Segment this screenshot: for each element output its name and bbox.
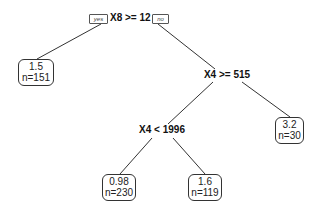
leaf-count: n=119 (189, 187, 221, 198)
leaf-node-4: 1.6 n=119 (188, 174, 222, 201)
leaf-node-1: 1.5 n=151 (18, 59, 54, 86)
decision-tree-diagram: yes X8 >= 12 no 1.5 n=151 X4 >= 515 3.2 … (0, 0, 321, 209)
edge-x4-1996-to-leaf-0.98 (120, 138, 152, 174)
leaf-value: 1.5 (19, 61, 53, 72)
edge-root-to-x4-515 (158, 24, 215, 69)
split-node-x4-515: X4 >= 515 (203, 69, 251, 81)
branch-tag-yes: yes (89, 14, 108, 24)
leaf-count: n=151 (19, 72, 53, 83)
leaf-count: n=230 (103, 187, 135, 198)
leaf-value: 3.2 (276, 119, 303, 130)
leaf-node-3: 0.98 n=230 (102, 174, 136, 201)
leaf-value: 0.98 (103, 176, 135, 187)
edge-root-to-leaf-1.5 (37, 24, 101, 59)
branch-tag-no: no (152, 14, 169, 24)
tree-edges (0, 0, 321, 209)
leaf-node-2: 3.2 n=30 (275, 117, 304, 144)
edge-x4-515-to-leaf-3.2 (242, 82, 290, 117)
edge-x4-1996-to-leaf-1.6 (173, 138, 205, 174)
edge-x4-515-to-x4-1996 (168, 82, 213, 124)
split-node-x4-1996: X4 < 1996 (139, 124, 185, 136)
split-node-root: X8 >= 12 (110, 12, 150, 24)
leaf-count: n=30 (276, 130, 303, 141)
leaf-value: 1.6 (189, 176, 221, 187)
